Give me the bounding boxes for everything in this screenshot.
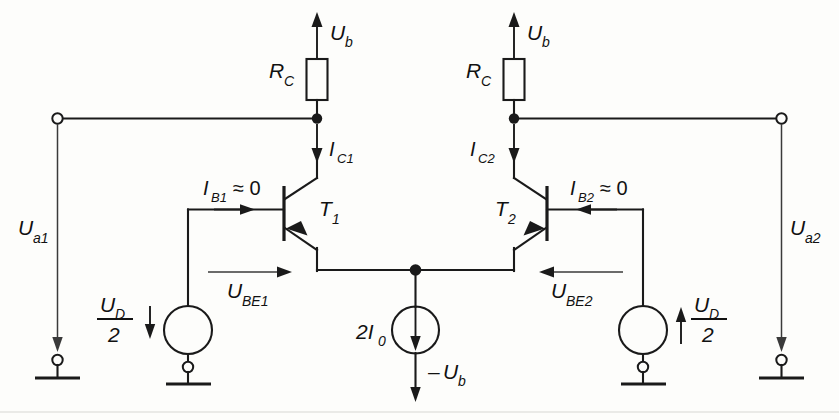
label-source-left: U D 2 — [97, 293, 133, 346]
svg-text:B1: B1 — [211, 190, 227, 205]
junction-dot-left-collector — [312, 113, 322, 123]
terminal-source-left[interactable] — [183, 362, 193, 372]
svg-text:≈ 0: ≈ 0 — [233, 177, 261, 199]
svg-text:2I: 2I — [355, 320, 374, 343]
junction-dot-right-collector — [509, 113, 519, 123]
svg-text:–: – — [428, 360, 440, 383]
svg-text:C1: C1 — [337, 151, 354, 166]
svg-text:U: U — [443, 360, 459, 383]
svg-text:U: U — [227, 279, 243, 302]
source-voltage-arrow-left — [145, 306, 155, 339]
label-source-right: U D 2 — [691, 293, 727, 346]
svg-text:BE1: BE1 — [242, 293, 268, 309]
schematic-canvas: U b U b R C R C I C1 I C2 I B1 ≈ 0 I B2 … — [0, 0, 839, 420]
label-vbe-right: U BE2 — [551, 279, 593, 309]
label-vbe-left: U BE1 — [227, 279, 268, 309]
svg-text:U: U — [330, 21, 346, 44]
current-source-tail — [392, 307, 439, 354]
resistor-right — [504, 59, 525, 100]
label-negative-supply: – U b — [428, 360, 466, 389]
supply-arrow-right — [509, 12, 520, 60]
label-supply-right: U b — [527, 21, 550, 50]
svg-text:2: 2 — [507, 211, 516, 227]
vbe-arrow-right — [539, 267, 623, 278]
label-output-left: U a1 — [18, 216, 49, 246]
output-terminal-left-top[interactable] — [52, 113, 62, 123]
svg-text:a1: a1 — [33, 230, 49, 246]
svg-text:b: b — [542, 34, 550, 50]
terminal-source-right[interactable] — [638, 362, 648, 372]
svg-text:I: I — [570, 177, 576, 199]
voltage-source-right — [619, 306, 667, 354]
svg-text:R: R — [269, 59, 284, 82]
output-voltage-arrow-right — [776, 124, 786, 352]
label-base-current-left: I B1 ≈ 0 — [203, 177, 261, 205]
svg-text:BE2: BE2 — [566, 293, 593, 309]
svg-text:I: I — [203, 177, 209, 199]
svg-text:I: I — [329, 138, 335, 160]
svg-text:0: 0 — [378, 333, 386, 349]
output-terminal-left-bottom[interactable] — [52, 355, 62, 365]
label-base-current-right: I B2 ≈ 0 — [570, 177, 628, 205]
svg-text:1: 1 — [332, 211, 340, 227]
svg-text:I: I — [470, 138, 476, 160]
source-voltage-arrow-right — [676, 307, 686, 344]
voltage-source-left — [164, 306, 212, 354]
label-transistor-left: T 1 — [319, 197, 340, 227]
vbe-arrow-left — [208, 267, 292, 278]
svg-text:U: U — [100, 293, 116, 316]
label-supply-left: U b — [330, 21, 353, 50]
negative-supply-arrow — [410, 353, 420, 402]
base-current-arrow-left — [214, 204, 255, 215]
svg-text:U: U — [694, 293, 710, 316]
label-collector-current-left: I C1 — [329, 138, 354, 166]
supply-arrow-left — [312, 12, 323, 60]
output-voltage-arrow-left — [52, 124, 62, 352]
svg-text:U: U — [18, 216, 34, 239]
label-transistor-right: T 2 — [495, 197, 516, 227]
label-collector-current-right: I C2 — [470, 138, 495, 166]
svg-text:2: 2 — [107, 323, 120, 346]
svg-text:U: U — [790, 216, 806, 239]
collector-current-arrow-left — [312, 124, 323, 163]
svg-text:C2: C2 — [478, 151, 495, 166]
svg-text:b: b — [458, 373, 466, 389]
svg-text:2: 2 — [701, 323, 714, 346]
svg-text:b: b — [345, 34, 353, 50]
svg-text:C: C — [284, 73, 295, 89]
label-resistor-right: R C — [466, 59, 492, 89]
svg-text:R: R — [466, 59, 481, 82]
svg-text:≈ 0: ≈ 0 — [600, 177, 628, 199]
label-resistor-left: R C — [269, 59, 295, 89]
label-output-right: U a2 — [790, 216, 821, 246]
circuit-diagram: U b U b R C R C I C1 I C2 I B1 ≈ 0 I B2 … — [0, 0, 839, 420]
svg-text:U: U — [527, 21, 543, 44]
output-terminal-right-top[interactable] — [776, 113, 786, 123]
resistor-left — [307, 59, 328, 100]
svg-text:U: U — [551, 279, 567, 302]
svg-text:B2: B2 — [578, 190, 595, 205]
collector-current-arrow-right — [509, 124, 520, 163]
label-tail-current: 2I 0 — [355, 320, 386, 349]
svg-text:a2: a2 — [805, 230, 821, 246]
base-current-arrow-right — [576, 204, 617, 215]
svg-text:C: C — [481, 73, 492, 89]
output-terminal-right-bottom[interactable] — [776, 355, 786, 365]
